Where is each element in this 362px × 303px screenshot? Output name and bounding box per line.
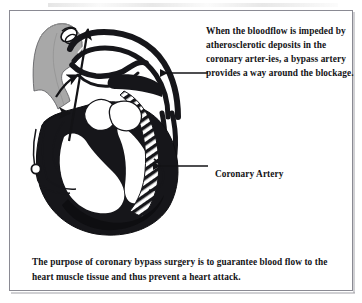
vessel-cross-section xyxy=(31,164,40,173)
frame-shadow-bottom xyxy=(11,292,355,294)
pulmonary-trunk-shadow xyxy=(108,74,163,97)
scan-bleed-artifact xyxy=(18,0,352,9)
label-coronary-artery: Coronary Artery xyxy=(215,168,283,180)
callout-text-bypass: When the bloodflow is impeded by atheros… xyxy=(206,25,358,81)
scan-bleed-line xyxy=(48,3,338,7)
figure-frame: When the bloodflow is impeded by atheros… xyxy=(9,10,353,291)
caption-bypass-purpose: The purpose of coronary bypass surgery i… xyxy=(32,255,344,284)
